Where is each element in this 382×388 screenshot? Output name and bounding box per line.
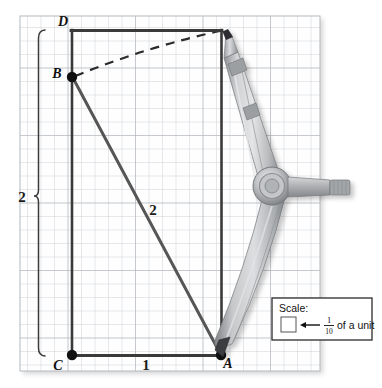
label-height-2: 2 [18,189,26,205]
scale-numerator: 1 [327,315,331,325]
point-b-dot [67,72,77,82]
compass-pivot-hub [253,167,291,205]
geometry-figure: 2 D B C A 2 1 [0,0,382,388]
label-base-1: 1 [142,357,150,373]
scale-unit-square [281,317,296,332]
point-label-b: B [51,66,61,81]
point-label-c: C [53,358,63,373]
compass-handle [288,177,350,197]
scale-legend-title: Scale: [279,302,308,314]
figure-canvas: 2 D B C A 2 1 [0,0,382,388]
point-label-a: A [222,356,232,371]
scale-denominator: 10 [325,327,333,336]
label-diagonal-2: 2 [149,202,157,218]
point-c-dot [67,350,77,360]
point-label-d: D [57,14,68,29]
compass-knurl-grip [330,180,350,195]
scale-legend-box: Scale: 1 10 of a unit [272,298,374,340]
scale-unit-text: of a unit [337,319,374,331]
